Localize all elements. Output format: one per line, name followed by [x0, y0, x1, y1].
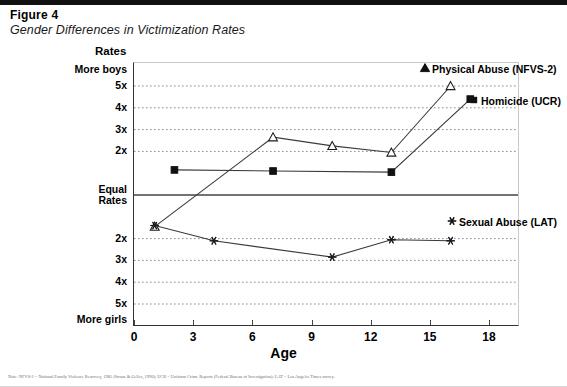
- series-line-1: [174, 99, 470, 172]
- y-label-more-boys: More boys: [74, 63, 127, 75]
- y-tick-upper-2x: 2x: [115, 144, 127, 156]
- y-tick-lower-5x: 5x: [115, 297, 127, 309]
- x-tick-label-3: 3: [190, 330, 197, 344]
- y-label-more-girls: More girls: [77, 313, 127, 325]
- y-tick-upper-4x: 4x: [115, 101, 127, 113]
- legend-marker-physical-abuse: [419, 62, 431, 74]
- footnote: Note: NFVS-2 = National Family Violence …: [8, 374, 563, 379]
- x-tick-label-12: 12: [364, 330, 377, 344]
- figure-number: Figure 4: [10, 8, 58, 22]
- y-tick-lower-2x: 2x: [115, 232, 127, 244]
- x-tick-label-0: 0: [131, 330, 138, 344]
- legend-marker-homicide: [468, 94, 480, 106]
- y-tick-lower-3x: 3x: [115, 253, 127, 265]
- x-tick-label-18: 18: [482, 330, 495, 344]
- x-tick-3: [193, 320, 194, 325]
- series-line-2: [155, 226, 451, 258]
- data-point-marker: [269, 133, 278, 141]
- series-label-sexual-abuse: Sexual Abuse (LAT): [459, 216, 557, 228]
- chart-series-svg: [134, 63, 520, 327]
- top-rule: [0, 0, 567, 5]
- series-label-physical-abuse: Physical Abuse (NFVS-2): [432, 63, 556, 75]
- x-tick-6: [252, 320, 253, 325]
- x-tick-18: [489, 320, 490, 325]
- x-tick-label-6: 6: [249, 330, 256, 344]
- x-axis-title: Age: [0, 345, 567, 361]
- x-tick-9: [312, 320, 313, 325]
- x-tick-12: [371, 320, 372, 325]
- series-label-homicide: Homicide (UCR): [481, 95, 561, 107]
- data-point-marker: [171, 167, 178, 174]
- chart-canvas: [134, 63, 518, 325]
- y-tick-upper-3x: 3x: [115, 123, 127, 135]
- y-axis-title: Rates: [95, 45, 126, 57]
- x-tick-0: [134, 320, 135, 325]
- data-point-marker: [328, 254, 336, 261]
- y-tick-upper-5x: 5x: [115, 79, 127, 91]
- series-line-0: [155, 86, 451, 227]
- y-label-equal-rates: EqualRates: [98, 184, 127, 205]
- y-tick-lower-4x: 4x: [115, 275, 127, 287]
- figure-title: Gender Differences in Victimization Rate…: [10, 23, 245, 37]
- legend-marker-sexual-abuse: [446, 215, 458, 227]
- x-tick-label-9: 9: [308, 330, 315, 344]
- data-point-marker: [388, 169, 395, 176]
- data-point-marker: [270, 168, 277, 175]
- chart-plot-area: [133, 62, 519, 326]
- data-point-marker: [387, 236, 395, 243]
- x-tick-15: [430, 320, 431, 325]
- x-tick-label-15: 15: [423, 330, 436, 344]
